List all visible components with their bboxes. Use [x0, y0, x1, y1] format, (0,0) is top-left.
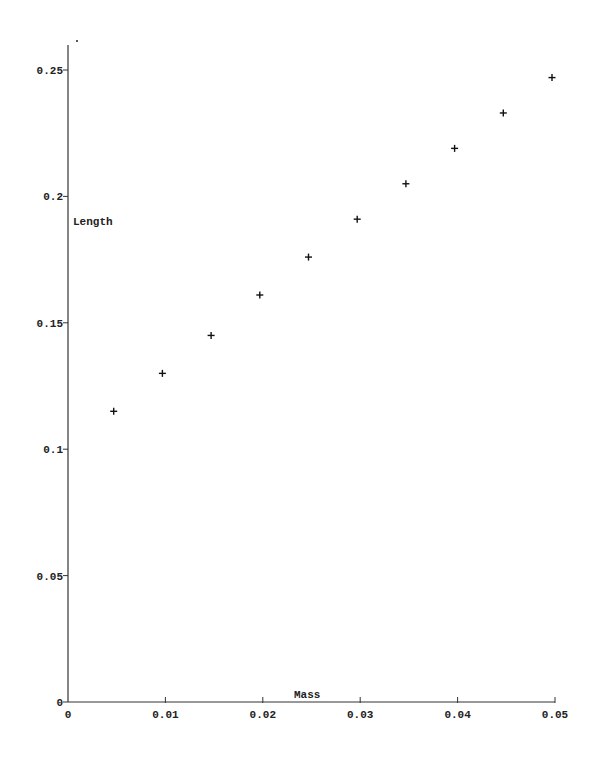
- plus-marker-icon: [451, 145, 458, 152]
- plus-marker-icon: [208, 332, 215, 339]
- tick-labels: 00.010.020.030.040.0500.050.10.150.20.25: [37, 65, 569, 721]
- plus-marker-icon: [500, 109, 507, 116]
- stray-dot: [76, 40, 78, 42]
- x-tick-label: 0.02: [250, 709, 276, 721]
- x-tick-label: 0: [65, 709, 72, 721]
- y-tick-label: 0.15: [37, 318, 64, 330]
- plus-marker-icon: [256, 291, 263, 298]
- data-points: [110, 74, 555, 415]
- y-tick-label: 0.25: [37, 65, 64, 77]
- x-axis-label: Mass: [294, 689, 320, 701]
- plus-marker-icon: [305, 254, 312, 261]
- plus-marker-icon: [549, 74, 556, 81]
- y-tick-label: 0.1: [43, 444, 63, 456]
- axes: [68, 45, 555, 702]
- tick-marks: [63, 70, 555, 703]
- x-tick-label: 0.04: [444, 709, 471, 721]
- y-tick-label: 0.2: [43, 191, 63, 203]
- x-tick-label: 0.05: [542, 709, 569, 721]
- y-axis-label: Length: [73, 216, 113, 228]
- plus-marker-icon: [354, 216, 361, 223]
- x-tick-label: 0.03: [347, 709, 374, 721]
- plus-marker-icon: [159, 370, 166, 377]
- scatter-chart: 00.010.020.030.040.0500.050.10.150.20.25…: [0, 0, 604, 763]
- plus-marker-icon: [402, 180, 409, 187]
- y-tick-label: 0.05: [37, 571, 64, 583]
- x-tick-label: 0.01: [152, 709, 179, 721]
- plus-marker-icon: [110, 408, 117, 415]
- y-tick-label: 0: [56, 697, 63, 709]
